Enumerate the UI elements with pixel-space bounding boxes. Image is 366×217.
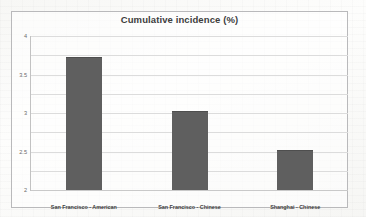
gridline: 0 (31, 190, 348, 191)
bar (277, 150, 313, 190)
gridline: 4 (31, 36, 348, 37)
x-axis-category-label: San Francisco - Chinese (158, 204, 221, 210)
x-axis-category-label: Shanghai - Chinese (270, 204, 320, 210)
y-axis-tick-label: 2 (24, 187, 27, 193)
y-axis-tick-label: 3 (24, 110, 27, 116)
chart-frame: Cumulative incidence (%) 00.511.522.533.… (11, 11, 348, 208)
chart-screenshot: Cumulative incidence (%) 00.511.522.533.… (0, 0, 366, 217)
y-axis-tick-label: 3.5 (19, 72, 27, 78)
chart-title: Cumulative incidence (%) (12, 14, 347, 25)
x-axis-category-label: San Francisco - American (51, 204, 117, 210)
bar (66, 57, 102, 190)
y-axis-tick-label: 2.5 (19, 149, 27, 155)
y-axis-tick-label: 4 (24, 33, 27, 39)
bar (172, 111, 208, 190)
plot-area: 00.511.522.533.54 (31, 36, 348, 190)
gridline: 3.5 (31, 55, 348, 56)
